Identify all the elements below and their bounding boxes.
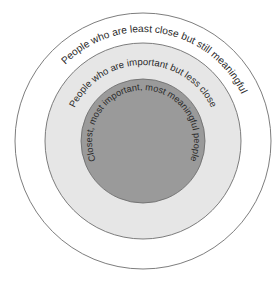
- concentric-relationship-diagram: People who are least close but still mea…: [0, 0, 280, 283]
- inner-circle: [81, 79, 205, 203]
